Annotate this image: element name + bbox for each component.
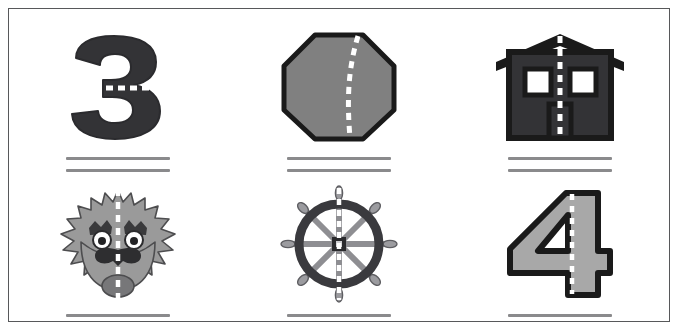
octagon-shape [284,35,394,139]
answer-line-cell-5-top[interactable] [287,169,391,172]
cell-dog-face [8,165,229,322]
answer-line-cell-6[interactable] [508,314,612,317]
octagon-svg [280,31,398,143]
dog-pupil-left [98,237,106,245]
answer-line-cell-4[interactable] [66,314,170,317]
numeral-four-glyph [510,193,610,295]
worksheet-page [0,0,681,332]
answer-line-cell-6-top[interactable] [508,169,612,172]
house-window-left [525,69,551,95]
house-window-right [570,69,596,95]
cell-numeral-four [449,165,670,322]
numeral-three-svg [58,32,178,142]
house-svg [494,32,626,142]
answer-line-cell-1[interactable] [66,157,170,160]
cell-ships-wheel [229,165,450,322]
figure-numeral-four [485,190,635,298]
dog-face-svg [57,186,179,302]
answer-line-cell-5[interactable] [287,314,391,317]
answer-line-cell-2[interactable] [287,157,391,160]
figure-grid [8,8,670,322]
figure-octagon [264,33,414,141]
dog-pupil-right [130,237,138,245]
cell-octagon [229,8,450,165]
cell-numeral-three [8,8,229,165]
figure-numeral-three [43,33,193,141]
figure-ships-wheel [264,190,414,298]
numeral-four-svg [506,189,614,299]
answer-line-cell-4-top[interactable] [66,169,170,172]
answer-line-cell-3[interactable] [508,157,612,160]
ships-wheel-svg [281,186,397,302]
figure-dog-face [43,190,193,298]
cell-house [449,8,670,165]
figure-house [485,33,635,141]
